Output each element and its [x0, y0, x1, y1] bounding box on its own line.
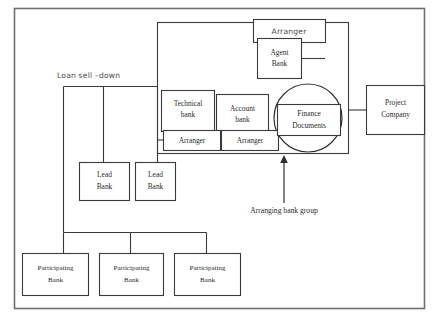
node-finance-documents-label-1: Finance: [297, 109, 321, 118]
arranging-bank-group-arrow: [280, 155, 288, 203]
node-project-company[interactable]: Project Company: [367, 86, 425, 135]
node-arranger-technical-label: Arranger: [179, 136, 206, 145]
node-agent-bank-label-1: Agent: [270, 48, 289, 57]
node-arranger-account-label: Arranger: [237, 136, 264, 145]
node-participating-bank-3-label-2: Bank: [200, 276, 215, 284]
node-lead-bank-1[interactable]: Lead Bank: [80, 163, 130, 201]
node-participating-bank-3-label-1: Participating: [190, 264, 226, 272]
node-arranger-account[interactable]: Arranger: [222, 131, 279, 151]
annotation-loan-sell-down: Loan sell –down: [57, 71, 120, 80]
node-agent-bank-label-2: Bank: [272, 59, 288, 68]
node-lead-bank-2-label-2: Bank: [148, 182, 164, 191]
node-lead-bank-2[interactable]: Lead Bank: [136, 163, 176, 201]
node-lead-bank-1-label-2: Bank: [97, 182, 113, 191]
node-arranger-technical[interactable]: Arranger: [164, 131, 221, 151]
diagram-canvas: Arranger Agent Bank Technical bank Accou…: [0, 0, 436, 324]
node-participating-bank-1[interactable]: Participating Bank: [23, 254, 89, 296]
node-technical-bank[interactable]: Technical bank: [162, 91, 215, 132]
node-participating-bank-2-label-1: Participating: [114, 264, 150, 272]
node-account-bank[interactable]: Account bank: [217, 95, 269, 136]
node-lead-bank-1-label-1: Lead: [97, 170, 112, 179]
node-technical-bank-label-1: Technical: [174, 99, 203, 108]
node-participating-bank-1-label-2: Bank: [48, 276, 63, 284]
node-finance-documents-label-2: Documents: [292, 121, 326, 130]
node-participating-bank-3[interactable]: Participating Bank: [175, 254, 241, 296]
node-account-bank-label-1: Account: [230, 104, 256, 113]
node-technical-bank-label-2: bank: [181, 110, 196, 119]
node-participating-bank-2-label-2: Bank: [124, 276, 139, 284]
annotation-arranging-bank-group: Arranging bank group: [250, 206, 318, 215]
node-lead-bank-2-label-1: Lead: [148, 170, 163, 179]
node-project-company-label-2: Company: [381, 110, 410, 119]
node-agent-bank[interactable]: Agent Bank: [258, 39, 302, 79]
node-participating-bank-2[interactable]: Participating Bank: [100, 254, 164, 296]
node-account-bank-label-2: bank: [235, 115, 250, 124]
node-project-company-label-1: Project: [385, 98, 407, 107]
diagram-root: Arranger Agent Bank Technical bank Accou…: [0, 0, 436, 324]
node-arranger-top-label: Arranger: [272, 27, 308, 36]
node-finance-documents[interactable]: Finance Documents: [278, 105, 341, 136]
node-participating-bank-1-label-1: Participating: [38, 264, 74, 272]
